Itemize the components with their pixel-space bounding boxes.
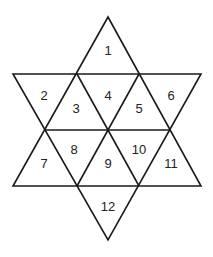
cell-label-3: 3 — [72, 101, 79, 116]
cell-label-5: 5 — [135, 101, 142, 116]
cell-label-11: 11 — [164, 156, 178, 171]
cell-label-12: 12 — [101, 199, 115, 214]
star-diagram: 1 2 3 4 5 6 7 8 9 10 11 12 — [0, 0, 213, 257]
cell-label-9: 9 — [104, 156, 111, 171]
cell-label-4: 4 — [104, 88, 111, 103]
cell-label-10: 10 — [132, 142, 146, 157]
cell-label-6: 6 — [167, 88, 174, 103]
cell-label-8: 8 — [70, 142, 77, 157]
cell-label-1: 1 — [104, 43, 111, 58]
cell-label-2: 2 — [40, 88, 47, 103]
cell-label-7: 7 — [40, 156, 47, 171]
